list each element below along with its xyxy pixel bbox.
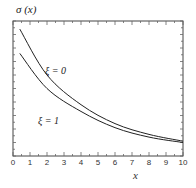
x-tick-label: 10 <box>179 158 188 167</box>
curve-label-xi-0: ξ = 0 <box>45 65 66 76</box>
axis-ticks <box>13 21 183 156</box>
x-tick-label: 8 <box>147 158 151 167</box>
x-tick-label: 0 <box>11 158 15 167</box>
x-tick-label: 3 <box>62 158 66 167</box>
x-tick-label: 6 <box>113 158 117 167</box>
x-tick-label: 7 <box>130 158 134 167</box>
x-tick-label: 5 <box>96 158 100 167</box>
x-tick-label: 2 <box>45 158 49 167</box>
x-axis-label: x <box>133 169 138 181</box>
x-tick-label: 9 <box>164 158 168 167</box>
x-tick-label: 1 <box>28 158 32 167</box>
x-tick-label: 4 <box>79 158 83 167</box>
y-axis-label: σ (x) <box>16 3 36 15</box>
plot-frame <box>13 21 183 156</box>
curve-label-xi-1: ξ = 1 <box>38 115 59 126</box>
